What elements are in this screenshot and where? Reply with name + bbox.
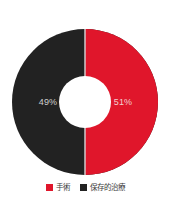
donut-center-hole	[59, 76, 111, 128]
legend-swatch-surgery	[46, 184, 53, 191]
legend-label-surgery: 手術	[56, 183, 70, 192]
legend-item-conservative[interactable]: 保存的治療	[80, 183, 125, 192]
chart-legend: 手術 保存的治療	[0, 180, 171, 194]
legend-label-conservative: 保存的治療	[90, 183, 125, 192]
legend-item-surgery[interactable]: 手術	[46, 183, 70, 192]
slice-data-label-conservative: 49%	[33, 97, 63, 108]
slice-data-label-surgery: 51%	[108, 97, 138, 108]
legend-swatch-conservative	[80, 184, 87, 191]
donut-chart-figure: 49% 51% 手術 保存的治療	[0, 0, 171, 203]
